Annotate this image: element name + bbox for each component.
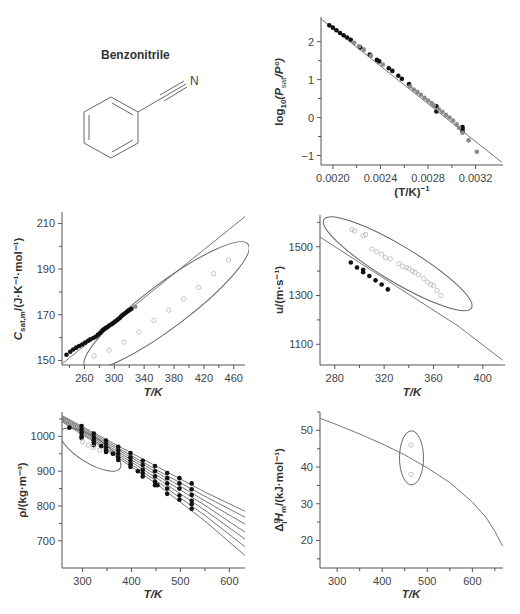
x-tick-label: 300 [73, 575, 91, 587]
y-tick-label: 170 [37, 309, 55, 321]
svg-text:ρ/(kg·m⁻³): ρ/(kg·m⁻³) [16, 462, 28, 517]
y-tick-label: 210 [37, 217, 55, 229]
y-tick-label: 30 [301, 498, 313, 510]
speed-of-sound-xlabel: T/K [403, 386, 422, 398]
svg-text:T/K: T/K [144, 588, 163, 600]
y-tick-label: 1000 [31, 430, 55, 442]
y-tick-label: 50 [301, 424, 313, 436]
x-tick-label: 300 [328, 575, 346, 587]
y-tick-label: 1100 [289, 338, 313, 350]
isobar-curve [62, 416, 245, 512]
y-tick-label: 150 [37, 354, 55, 366]
y-tick-label: −1 [301, 150, 314, 162]
heat-capacity-xlabel: T/K [144, 386, 163, 398]
x-tick-label: 0.0028 [411, 172, 445, 184]
series-open [92, 258, 231, 358]
fit-curve [320, 418, 503, 546]
enthalpy-xlabel: T/K [402, 588, 421, 600]
y-tick-label: 1300 [289, 289, 313, 301]
x-tick-label: 420 [195, 372, 213, 384]
figure-canvas: Benzonitrile N 0.00200.00240.00280.0032−… [0, 0, 520, 614]
svg-text:log10(Psat/P°): log10(Psat/P°) [273, 58, 288, 126]
outlier-ellipse [54, 420, 127, 479]
axes [58, 212, 245, 369]
nitrogen-label: N [190, 74, 199, 88]
y-tick-label: 2 [308, 36, 314, 48]
molecule-structure [84, 81, 187, 158]
x-tick-label: 0.0032 [459, 172, 493, 184]
density-xlabel: T/K [144, 588, 163, 600]
svg-text:T/K: T/K [402, 588, 421, 600]
x-tick-label: 300 [105, 372, 123, 384]
outlier-ellipse [72, 227, 261, 385]
figure-svg: N 0.00200.00240.00280.0032−1012260300340… [0, 0, 520, 614]
y-tick-label: 900 [37, 465, 55, 477]
y-tick-label: 40 [301, 461, 313, 473]
y-tick-label: 20 [301, 534, 313, 546]
y-tick-label: 0 [308, 112, 314, 124]
axes [317, 17, 503, 169]
compound-name: Benzonitrile [101, 48, 170, 62]
y-tick-label: 800 [37, 500, 55, 512]
y-tick-label: 700 [37, 535, 55, 547]
outlier-ellipse [315, 204, 481, 323]
svg-text:Csat,m/(J·K⁻¹·mol⁻¹): Csat,m/(J·K⁻¹·mol⁻¹) [12, 238, 27, 341]
x-tick-label: 400 [474, 372, 492, 384]
x-tick-label: 380 [165, 372, 183, 384]
x-tick-label: 340 [135, 372, 153, 384]
fit-curve [320, 237, 503, 360]
x-tick-label: 600 [463, 575, 481, 587]
vapor-pressure-xlabel: (T/K)−1 [394, 184, 430, 198]
svg-text:u/(m·s⁻¹): u/(m·s⁻¹) [273, 266, 285, 314]
vapor-pressure-chart: 0.00200.00240.00280.0032−1012 [301, 17, 503, 184]
x-tick-label: 320 [375, 372, 393, 384]
enthalpy-vaporization-chart: 30040050060020304050 [301, 412, 503, 587]
x-tick-label: 0.0024 [364, 172, 398, 184]
vapor-pressure-ylabel: log10(Psat/P°) [273, 58, 288, 126]
x-tick-label: 500 [171, 575, 189, 587]
series-gray [352, 41, 479, 155]
x-tick-label: 600 [220, 575, 238, 587]
y-tick-label: 1500 [289, 241, 313, 253]
x-tick-label: 260 [75, 372, 93, 384]
x-tick-label: 360 [424, 372, 442, 384]
x-tick-label: 460 [225, 372, 243, 384]
fit-curve [321, 19, 502, 162]
x-tick-label: 0.0020 [316, 172, 350, 184]
density-chart: 3004005006007008009001000 [31, 412, 245, 587]
x-tick-label: 280 [326, 372, 344, 384]
speed-of-sound-ylabel: u/(m·s⁻¹) [273, 266, 285, 314]
axes [316, 412, 503, 572]
heat-capacity-chart: 260300340380420460150170190210 [37, 212, 262, 385]
series-filled [64, 307, 134, 358]
series-gray [133, 304, 138, 309]
isobar-curve [62, 422, 245, 556]
svg-text:(T/K)−1: (T/K)−1 [394, 184, 430, 198]
speed-of-sound-chart: 280320360400110013001500 [289, 204, 505, 384]
y-tick-label: 1 [308, 74, 314, 86]
enthalpy-ylabel: ΔglHm/(kJ·mol⁻¹) [271, 448, 289, 532]
svg-text:T/K: T/K [144, 386, 163, 398]
x-tick-label: 400 [373, 575, 391, 587]
heat-capacity-ylabel: Csat,m/(J·K⁻¹·mol⁻¹) [12, 238, 27, 341]
svg-text:ΔglHm/(kJ·mol⁻¹): ΔglHm/(kJ·mol⁻¹) [271, 448, 289, 532]
y-tick-label: 190 [37, 263, 55, 275]
svg-text:T/K: T/K [403, 386, 422, 398]
x-tick-label: 400 [122, 575, 140, 587]
density-ylabel: ρ/(kg·m⁻³) [16, 462, 28, 517]
x-tick-label: 500 [418, 575, 436, 587]
